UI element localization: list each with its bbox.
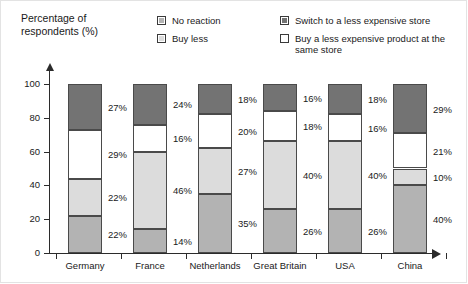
legend-swatch-white [280,34,289,43]
bar-segment [393,185,427,253]
x-axis-tick [381,253,382,259]
bar-segment [328,141,362,209]
bar-segment-label: 29% [433,103,452,114]
bar-segment-label: 26% [303,226,322,237]
bar-segment [263,209,297,253]
legend-item: Buy less [157,33,267,44]
bar-segment-label: 40% [303,170,322,181]
legend-item: No reaction [157,15,267,26]
bar-segment [68,84,102,130]
legend-label: Buy less [172,33,208,44]
y-axis-tick-label: 100 [6,78,40,89]
y-axis-tick [44,152,50,153]
y-axis-title: Percentage of respondents (%) [21,12,98,37]
bar-segment [328,114,362,141]
y-axis-tick [44,219,50,220]
stacked-bar-chart: Percentage of respondents (%) No reactio… [0,0,468,284]
legend-swatch-light-gray [157,34,166,43]
bar-china: 40%10%21%29% [393,84,427,253]
legend-column-left: No reactionBuy less [157,15,267,51]
bar-germany: 22%22%29%27% [68,84,102,253]
y-axis-tick [44,185,50,186]
x-axis-tick [251,253,252,259]
x-axis-tick [446,253,447,259]
y-axis-tick-label: 80 [6,112,40,123]
x-axis-arrow-icon [432,249,441,259]
bar-segment [328,84,362,114]
bar-segment [198,114,232,148]
legend-item: Buy a less expensive product at the same… [280,33,465,55]
x-axis-line [49,253,433,254]
bar-france: 14%46%16%24% [133,84,167,253]
y-axis-line [49,70,50,253]
bar-segment [133,152,167,230]
bar-segment-label: 18% [368,94,387,105]
bar-segment [133,125,167,152]
y-axis-tick [44,253,50,254]
x-axis-tick [121,253,122,259]
bar-segment [393,84,427,133]
x-axis-category-label: China [365,260,455,271]
bar-segment-label: 27% [108,101,127,112]
bar-segment-label: 22% [108,229,127,240]
bar-usa: 26%40%16%18% [328,84,362,253]
bar-segment-label: 18% [303,121,322,132]
bar-segment-label: 20% [238,126,257,137]
bar-segment-label: 14% [173,236,192,247]
legend-swatch-medium-gray [157,16,166,25]
bar-segment [263,84,297,111]
bar-segment [68,216,102,253]
bar-segment-label: 10% [433,171,452,182]
legend-label: No reaction [172,15,221,26]
bar-segment [263,141,297,209]
bar-segment [68,130,102,179]
plot-area: 02040608010022%22%29%27%Germany14%46%16%… [50,84,440,253]
y-axis-tick-label: 40 [6,179,40,190]
bar-segment [68,179,102,216]
legend-item: Switch to a less expensive store [280,15,465,26]
bar-segment [133,229,167,253]
bar-segment-label: 46% [173,185,192,196]
bar-segment-label: 26% [368,226,387,237]
bar-segment [263,111,297,141]
bar-segment [198,194,232,253]
bar-segment-label: 21% [433,145,452,156]
bar-segment [198,148,232,194]
x-axis-tick [316,253,317,259]
bar-segment [393,169,427,186]
legend-swatch-dark-gray [280,16,289,25]
bar-segment-label: 40% [433,214,452,225]
bar-segment-label: 24% [173,99,192,110]
bar-segment-label: 16% [303,92,322,103]
y-axis-tick [44,84,50,85]
bar-segment-label: 29% [108,149,127,160]
bar-segment-label: 27% [238,166,257,177]
y-axis-tick-label: 60 [6,146,40,157]
bar-segment [393,133,427,168]
x-axis-tick [56,253,57,259]
legend-label: Switch to a less expensive store [295,15,430,26]
y-axis-arrow-icon [46,63,54,71]
y-axis-tick-label: 0 [6,247,40,258]
legend-column-right: Switch to a less expensive storeBuy a le… [280,15,465,62]
bar-segment-label: 22% [108,192,127,203]
y-axis-tick [44,118,50,119]
bar-segment-label: 35% [238,218,257,229]
bar-segment-label: 40% [368,170,387,181]
bar-great-britain: 26%40%18%16% [263,84,297,253]
bar-segment [133,84,167,125]
bar-netherlands: 35%27%20%18% [198,84,232,253]
bar-segment [198,84,232,114]
bar-segment [328,209,362,253]
bar-segment-label: 16% [368,122,387,133]
y-axis-tick-label: 20 [6,213,40,224]
legend-label: Buy a less expensive product at the same… [295,33,465,55]
bar-segment-label: 18% [238,94,257,105]
bar-segment-label: 16% [173,133,192,144]
x-axis-tick [186,253,187,259]
